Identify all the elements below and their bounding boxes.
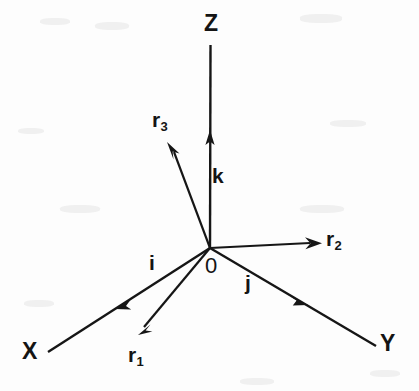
x-axis-arrow [48, 248, 210, 352]
i-vector-arrowhead [115, 299, 132, 310]
z-axis-arrow [210, 45, 211, 248]
vector-label-r2-subscript: 2 [335, 238, 342, 253]
unit-vector-label-j: j [245, 272, 251, 293]
vector-label-r3-base: r [152, 108, 160, 131]
r2-vector-arrow [210, 237, 322, 249]
axis-label-y: Y [380, 332, 395, 355]
r3-vector-arrow [167, 142, 210, 248]
vector-label-r2: r2 [326, 228, 341, 249]
vector-label-r3-subscript: 3 [161, 119, 168, 134]
y-axis-arrow [210, 248, 376, 346]
coordinate-system-figure: Z X Y k i j 0 r1 r2 r3 [0, 0, 419, 391]
origin-label: 0 [205, 255, 217, 277]
vector-label-r1: r1 [128, 344, 143, 365]
axis-label-x: X [22, 340, 37, 363]
vectors-svg [0, 0, 419, 391]
unit-vector-label-i: i [149, 252, 155, 273]
vector-label-r2-base: r [326, 227, 334, 250]
j-vector-arrowhead [291, 297, 309, 306]
axis-label-z: Z [204, 12, 218, 35]
vector-label-r1-base: r [128, 343, 136, 366]
vector-label-r3: r3 [152, 109, 167, 130]
vector-label-r1-subscript: 1 [137, 354, 144, 369]
unit-vector-label-k: k [212, 165, 224, 186]
